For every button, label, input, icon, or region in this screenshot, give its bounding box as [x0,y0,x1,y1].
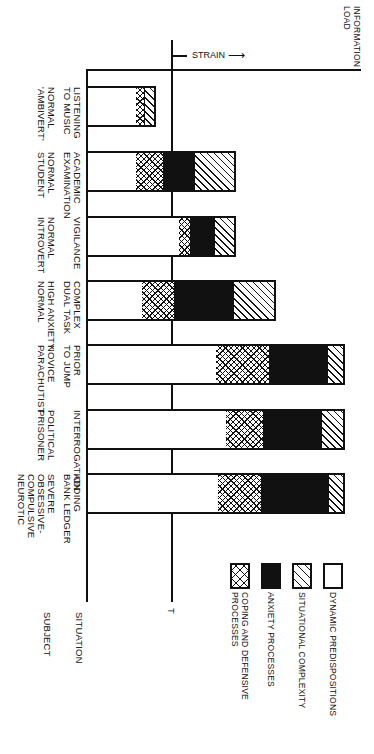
threshold-t-line [171,40,173,602]
legend-label-anxiety: ANXIETY PROCESSES [266,592,276,687]
situation-axis-label: SITUATION [74,612,84,664]
segment-coping-defensive [218,475,261,512]
subject-label: HIGH ANXIETY NORMAL [36,281,56,350]
bar-row [86,344,345,385]
bar-row [86,409,345,450]
segment-dynamic-predispositions [88,282,142,319]
segment-coping-defensive [216,346,269,383]
legend-swatch-dynamic [323,563,343,589]
subject-label: NORMAL STUDENT [36,152,56,198]
bar-row [86,280,276,321]
legend-label-situational: SITUATIONAL COMPLEXITY [297,592,307,708]
segment-coping-defensive [142,282,174,319]
segment-coping-defensive [136,88,144,125]
situation-label: PRIOR TO JUMP [62,345,82,388]
legend-label-coping: COPING AND DEFENSIVE PROCESSES [230,592,250,700]
legend-swatch-situational [292,563,312,589]
legend-swatch-coping [230,563,250,589]
segment-situational-complexity [214,218,234,255]
segment-anxiety [174,282,233,319]
segment-situational-complexity [321,411,343,448]
situation-label: ACADEMIC EXAMINATION [62,152,82,219]
segment-anxiety [261,475,328,512]
segment-anxiety [190,218,214,255]
segment-anxiety [163,153,194,190]
situation-label: LISTENING TO MUSIC [62,87,82,139]
situation-label: VIGILANCE [72,217,82,269]
segment-situational-complexity [144,88,154,125]
segment-dynamic-predispositions [88,475,218,512]
subject-label: NOVICE PARACHUTIST [36,345,56,414]
strain-tick [173,55,187,57]
segment-coping-defensive [179,218,190,255]
segment-situational-complexity [233,282,274,319]
segment-situational-complexity [327,346,343,383]
legend-swatch-anxiety [261,563,281,589]
bar-row [86,151,236,192]
subject-label: NORMAL INTROVERT [36,217,56,274]
segment-anxiety [263,411,321,448]
subject-axis-label: SUBJECT [42,612,52,657]
situation-label: ADDING BANK LEDGER [62,474,82,544]
strain-arrow-icon: ⟶ [228,48,245,62]
bar-row [86,86,156,127]
information-load-axis [87,69,361,71]
subject-label: POLITICAL PRISONER [36,410,56,461]
segment-coping-defensive [226,411,263,448]
subject-label: NORMAL 'AMBIVERT' [36,87,56,141]
segment-coping-defensive [136,153,163,190]
segment-dynamic-predispositions [88,153,136,190]
row-axis [86,69,88,602]
segment-dynamic-predispositions [88,411,226,448]
segment-dynamic-predispositions [88,218,179,255]
subject-label: SEVERE OBSESSIVE- COMPULSIVE NEUROTIC [16,474,56,538]
segment-dynamic-predispositions [88,346,216,383]
situation-label: COMPLEX DUAL TASK [62,281,82,334]
segment-anxiety [269,346,327,383]
strain-label: STRAIN [192,50,225,60]
segment-dynamic-predispositions [88,88,136,125]
bar-row [86,216,236,257]
segment-situational-complexity [194,153,234,190]
segment-situational-complexity [328,475,343,512]
bar-row [86,473,345,514]
legend-label-dynamic: DYNAMIC PREDISPOSITIONS [328,592,338,716]
t-marker-label: T [166,608,176,614]
information-load-label: INFORMATION LOAD [342,6,362,67]
